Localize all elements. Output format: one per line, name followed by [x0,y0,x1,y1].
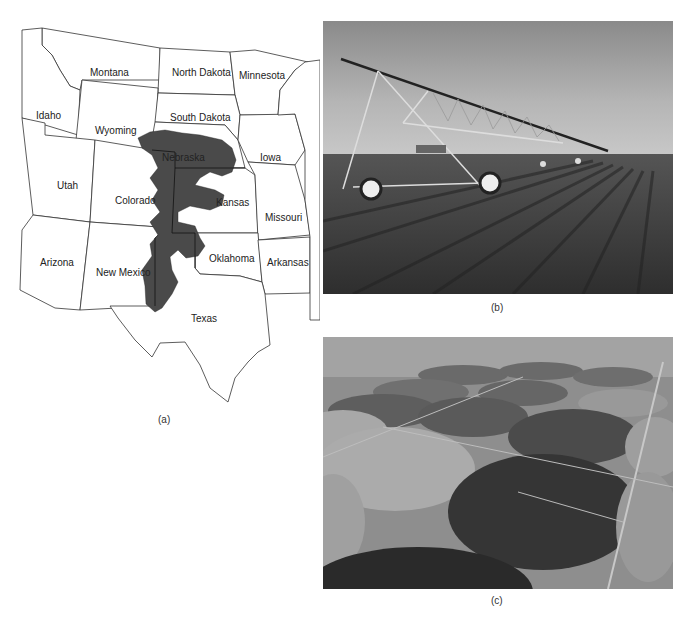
center-pivot-photo [323,21,673,294]
caption-c: (c) [491,595,503,606]
state-label-oklahoma: Oklahoma [209,253,255,264]
state-label-idaho: Idaho [36,110,61,121]
state-label-minnesota: Minnesota [239,70,285,81]
caption-a: (a) [158,414,170,425]
state-label-nebraska: Nebraska [162,152,205,163]
state-label-missouri: Missouri [265,212,302,223]
aerial-pivot-fields-photo [323,337,673,589]
aquifer-map: Montana North Dakota Minnesota Idaho Sou… [0,0,320,440]
state-label-texas: Texas [191,313,217,324]
state-label-arkansas: Arkansas [267,257,309,268]
state-label-montana: Montana [90,67,129,78]
state-label-utah: Utah [57,180,78,191]
state-label-colorado: Colorado [115,195,156,206]
state-label-iowa: Iowa [260,152,281,163]
state-label-kansas: Kansas [216,197,249,208]
caption-b: (b) [491,302,503,313]
state-label-wyoming: Wyoming [95,125,137,136]
state-label-north-dakota: North Dakota [172,67,231,78]
state-label-new-mexico: New Mexico [96,267,150,278]
state-label-arizona: Arizona [40,257,74,268]
state-label-south-dakota: South Dakota [170,112,231,123]
